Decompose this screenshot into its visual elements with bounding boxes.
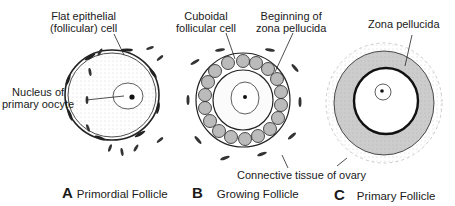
label-line: primary oocyte (2, 98, 74, 110)
caption-c: CPrimary Follicle (334, 186, 435, 203)
panel-title: Growing Follicle (217, 188, 299, 200)
label-nucleus-primary-oocyte: Nucleus of primary oocyte (2, 86, 74, 110)
caption-b: BGrowing Follicle (192, 184, 299, 201)
caption-a: APrimordial Follicle (62, 184, 168, 201)
label-line: Flat epithelial (50, 10, 117, 22)
panel-letter: A (62, 184, 73, 201)
label-line: zona pellucida (256, 22, 326, 34)
label-line: follicular cell (176, 22, 236, 34)
label-connective-tissue: Connective tissue of ovary (237, 169, 366, 181)
panel-letter: B (192, 184, 203, 201)
label-line: Beginning of (256, 10, 326, 22)
growing-follicle (187, 33, 302, 168)
label-line: Cuboidal (176, 10, 236, 22)
primary-follicle (326, 35, 442, 166)
label-zona-pellucida: Zona pellucida (368, 18, 440, 30)
label-cuboidal-follicular-cell: Cuboidal follicular cell (176, 10, 236, 34)
label-line: Nucleus of (2, 86, 74, 98)
panel-title: Primary Follicle (357, 190, 436, 202)
panel-title: Primordial Follicle (77, 188, 168, 200)
label-beginning-zona-pellucida: Beginning of zona pellucida (256, 10, 326, 34)
primordial-follicle (64, 34, 164, 156)
label-line: (follicular) cell (50, 22, 117, 34)
panel-letter: C (334, 186, 345, 203)
label-flat-epithelial-cell: Flat epithelial (follicular) cell (50, 10, 117, 34)
